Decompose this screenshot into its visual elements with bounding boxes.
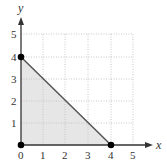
vertex-point-x-intercept xyxy=(108,142,115,149)
vertex-point-origin xyxy=(18,142,25,149)
x-tick: 0 xyxy=(18,149,24,161)
chart: x y 0 1 2 3 4 5 1 2 3 4 5 xyxy=(0,0,167,164)
y-tick: 2 xyxy=(11,95,17,107)
y-tick: 3 xyxy=(11,73,17,85)
y-tick: 1 xyxy=(11,117,17,129)
y-axis-arrow-icon xyxy=(18,17,24,25)
x-axis-arrow-icon xyxy=(145,142,153,148)
vertex-point-y-intercept xyxy=(18,54,25,61)
x-tick: 3 xyxy=(85,149,91,161)
y-axis-label: y xyxy=(17,1,24,15)
x-tick: 5 xyxy=(130,149,136,161)
x-tick: 4 xyxy=(108,149,114,161)
x-tick: 1 xyxy=(40,149,46,161)
x-tick: 2 xyxy=(62,149,68,161)
y-tick: 5 xyxy=(11,28,17,40)
x-axis-label: x xyxy=(155,138,162,152)
y-tick: 4 xyxy=(11,51,17,63)
